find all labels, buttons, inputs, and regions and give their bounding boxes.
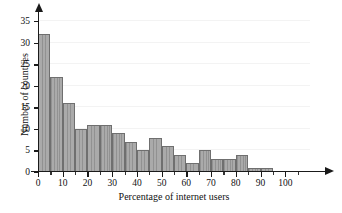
histogram-bar	[112, 133, 124, 172]
histogram-figure: 0102030405060708090100 05101520253035 Pe…	[0, 0, 342, 213]
histogram-bar	[75, 129, 87, 172]
plot-area	[38, 17, 310, 172]
y-tick	[34, 129, 39, 130]
x-tick-major	[261, 172, 262, 177]
x-axis-arrowhead-icon	[325, 167, 334, 175]
x-tick-minor	[75, 172, 76, 175]
x-tick-major	[87, 172, 88, 177]
x-tick-major	[112, 172, 113, 177]
histogram-bar	[162, 146, 174, 172]
y-tick	[34, 43, 39, 44]
histogram-bar	[199, 150, 211, 172]
y-tick	[34, 150, 39, 151]
histogram-bar	[236, 155, 248, 172]
y-axis-title: Number of countries	[19, 20, 30, 170]
x-tick-minor	[273, 172, 274, 175]
y-tick	[34, 21, 39, 22]
histogram-bar	[149, 138, 161, 172]
x-tick-minor	[248, 172, 249, 175]
x-tick-minor	[149, 172, 150, 175]
histogram-bar	[174, 155, 186, 172]
histogram-bar	[137, 150, 149, 172]
x-tick-minor	[298, 172, 299, 175]
x-tick-minor	[174, 172, 175, 175]
x-tick-minor	[125, 172, 126, 175]
y-tick	[34, 86, 39, 87]
x-tick-major	[211, 172, 212, 177]
x-tick-minor	[199, 172, 200, 175]
y-axis-arrowhead-icon	[35, 3, 43, 12]
x-tick-minor	[100, 172, 101, 175]
x-tick-major	[137, 172, 138, 177]
x-tick-major	[63, 172, 64, 177]
bar-series	[38, 17, 310, 172]
y-tick	[34, 107, 39, 108]
histogram-bar	[100, 125, 112, 172]
x-tick-minor	[50, 172, 51, 175]
histogram-bar	[38, 34, 50, 172]
histogram-bar	[87, 125, 99, 172]
y-axis-line	[38, 10, 39, 172]
histogram-bar	[50, 77, 62, 172]
x-tick-major	[236, 172, 237, 177]
histogram-bar	[125, 142, 137, 172]
x-tick-label: 100	[270, 178, 300, 189]
y-tick	[34, 64, 39, 65]
x-tick-major	[285, 172, 286, 177]
x-tick-major	[186, 172, 187, 177]
y-tick	[34, 172, 39, 173]
x-tick-minor	[223, 172, 224, 175]
x-tick-major	[162, 172, 163, 177]
x-axis-title: Percentage of internet users	[38, 191, 310, 202]
histogram-bar	[63, 103, 75, 172]
